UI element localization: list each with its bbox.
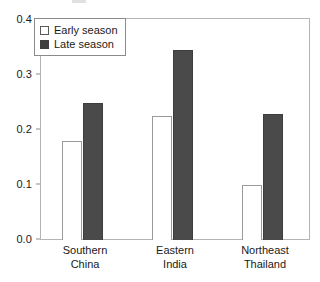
x-axis-tick-label-line: Southern	[63, 244, 108, 258]
legend-item: Late season	[40, 37, 118, 51]
bar-late-0	[83, 103, 103, 241]
x-axis-tick-label: EasternIndia	[156, 244, 194, 271]
x-axis-tick-label-line: India	[156, 258, 194, 272]
y-axis-tick-label: 0.4	[16, 13, 32, 25]
y-axis-tick-label: 0.3	[16, 68, 32, 80]
legend-item: Early season	[40, 23, 118, 37]
bar-early-0	[62, 141, 82, 240]
bar-late-1	[173, 50, 193, 240]
y-axis-tick-mark	[36, 74, 40, 75]
x-axis-tick-label: SouthernChina	[63, 244, 108, 271]
chart-legend: Early seasonLate season	[34, 18, 126, 56]
x-axis-tick-label-line: China	[63, 258, 108, 272]
x-axis: SouthernChinaEasternIndiaNortheastThaila…	[40, 244, 310, 282]
x-axis-tick-label-line: Thailand	[241, 258, 289, 272]
y-axis-tick-mark	[36, 184, 40, 185]
bar-chart: 0.00.10.20.30.4 SouthernChinaEasternIndi…	[0, 0, 320, 282]
y-axis-tick-label: 0.2	[16, 123, 32, 135]
legend-label: Late season	[54, 39, 114, 50]
y-axis-tick-mark	[36, 129, 40, 130]
bar-late-2	[263, 114, 283, 241]
y-axis-tick-mark	[36, 239, 40, 240]
cropped-title-artifact	[72, 0, 86, 3]
y-axis-tick-label: 0.1	[16, 178, 32, 190]
legend-label: Early season	[54, 25, 118, 36]
x-axis-tick-label: NortheastThailand	[241, 244, 289, 271]
x-axis-tick-label-line: Northeast	[241, 244, 289, 258]
legend-swatch-open-square-icon	[40, 26, 49, 35]
x-axis-tick-label-line: Eastern	[156, 244, 194, 258]
legend-swatch-filled-square-icon	[40, 40, 49, 49]
y-axis-tick-label: 0.0	[16, 233, 32, 245]
bar-early-1	[152, 116, 172, 240]
bar-early-2	[242, 185, 262, 240]
